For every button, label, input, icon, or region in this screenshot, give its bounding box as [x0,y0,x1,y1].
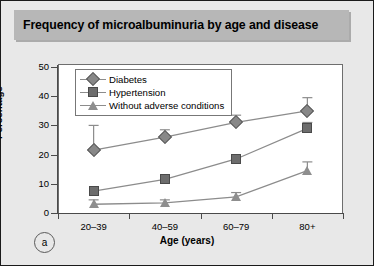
y-tick-label: 50 [1,61,49,72]
triangle-marker-icon [80,100,106,111]
legend-item-diabetes: Diabetes [80,73,224,86]
y-axis-line [57,65,58,214]
x-axis-title: Age (years) [1,235,373,246]
legend-label: Diabetes [109,74,147,85]
x-tick [343,213,344,219]
square-marker-icon [160,174,170,184]
y-tick-label: 20 [1,149,49,160]
x-tick-label: 40–59 [152,221,178,232]
square-marker-icon [80,87,106,98]
y-tick-label: 30 [1,119,49,130]
square-marker-icon [302,123,312,133]
y-tick [51,96,57,97]
page-title: Frequency of microalbuminuria by age and… [23,18,318,32]
x-tick [201,213,202,219]
y-tick [51,125,57,126]
triangle-marker-icon [160,198,170,207]
x-tick-label: 60–79 [223,221,249,232]
y-tick [51,67,57,68]
chart-title-band: Frequency of microalbuminuria by age and… [14,10,349,40]
x-tick-label: 80+ [299,221,315,232]
y-tick-label: 10 [1,178,49,189]
legend-label: Without adverse conditions [109,100,224,111]
triangle-marker-icon [231,192,241,201]
triangle-marker-icon [89,199,99,208]
y-tick-label: 40 [1,90,49,101]
y-tick [51,213,57,214]
diamond-marker-icon [80,74,106,85]
x-tick [272,213,273,219]
legend-item-hypertension: Hypertension [80,86,224,99]
y-tick [51,184,57,185]
legend-label: Hypertension [109,87,166,98]
triangle-marker-icon [302,166,312,175]
y-tick-label: 0 [1,207,49,218]
x-tick [129,213,130,219]
square-marker-icon [89,186,99,196]
chart-legend: Diabetes Hypertension Without adverse co… [75,69,232,116]
legend-item-without-adverse-conditions: Without adverse conditions [80,99,224,112]
panel-label: a [34,232,55,253]
square-marker-icon [231,154,241,164]
x-tick [58,213,59,219]
x-tick-label: 20–39 [80,221,106,232]
y-tick [51,155,57,156]
figure-panel: Frequency of microalbuminuria by age and… [0,0,374,266]
